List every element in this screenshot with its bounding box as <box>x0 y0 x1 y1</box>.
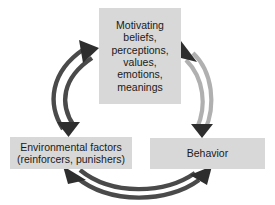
node-environmental-label: Environmental factors (reinforcers, puni… <box>14 141 128 166</box>
node-behavior-label: Behavior <box>184 147 231 159</box>
node-motivating-beliefs: Motivating beliefs, perceptions, values,… <box>99 8 181 104</box>
arrowhead-down-left <box>57 122 80 137</box>
connector-motivating-behavior <box>177 41 213 138</box>
node-environmental-factors: Environmental factors (reinforcers, puni… <box>10 137 132 169</box>
node-behavior: Behavior <box>150 138 265 169</box>
connector-motivating-environment <box>54 40 99 137</box>
arrowhead-down-right <box>191 124 213 138</box>
node-motivating-label: Motivating beliefs, perceptions, values,… <box>108 19 171 93</box>
cycle-diagram: Motivating beliefs, perceptions, values,… <box>0 0 275 205</box>
connector-environment-behavior <box>63 166 212 198</box>
